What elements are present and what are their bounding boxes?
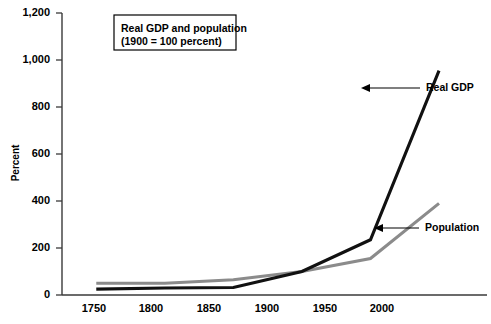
legend-line-2: (1900 = 100 percent) [121,35,222,47]
y-axis-title: Percent [10,144,21,181]
y-tick-label-400: 400 [32,194,50,206]
x-tick-label-1950: 1950 [313,302,337,314]
chart-container: Percent 1,200 1,000 800 600 400 200 0 17… [0,0,491,324]
gdp-population-line-chart: Percent 1,200 1,000 800 600 400 200 0 17… [0,0,491,324]
y-tick-label-600: 600 [32,147,50,159]
x-tick-label-1900: 1900 [255,302,279,314]
y-tick-label-800: 800 [32,100,50,112]
x-tick-label-1800: 1800 [139,302,163,314]
chart-background [0,0,491,324]
real-gdp-annotation-label: Real GDP [426,81,474,93]
x-tick-label-1750: 1750 [82,302,106,314]
population-annotation-label: Population [425,221,479,233]
y-tick-label-0: 0 [44,288,50,300]
y-tick-label-200: 200 [32,241,50,253]
y-tick-label-1000: 1,000 [22,53,50,65]
x-tick-label-1850: 1850 [197,302,221,314]
legend-line-1: Real GDP and population [121,22,247,34]
y-tick-label-1200: 1,200 [22,6,50,18]
x-tick-label-2000: 2000 [370,302,394,314]
